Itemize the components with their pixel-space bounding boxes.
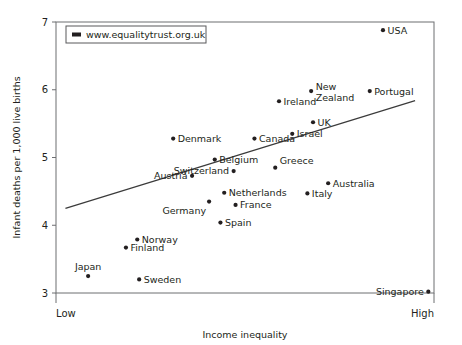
legend-swatch-icon	[72, 33, 81, 37]
point-label: New	[316, 81, 337, 92]
point-marker	[135, 237, 139, 241]
point-marker	[277, 99, 281, 103]
data-point: Switzerland	[174, 165, 236, 176]
x-axis-title: Income inequality	[203, 329, 288, 340]
data-point: Greece	[273, 155, 314, 170]
data-point: Spain	[218, 217, 251, 228]
point-label: Canada	[259, 133, 295, 144]
data-point: NewZealand	[309, 81, 354, 103]
point-marker	[222, 191, 226, 195]
data-point: UK	[311, 117, 332, 128]
point-marker	[309, 89, 313, 93]
point-label: Sweden	[144, 274, 182, 285]
y-tick-label: 3	[42, 288, 48, 299]
point-label: Zealand	[316, 92, 355, 103]
point-label: Netherlands	[229, 187, 287, 198]
data-point: Singapore	[376, 286, 431, 297]
y-tick-label: 6	[42, 84, 48, 95]
point-marker	[311, 120, 315, 124]
data-point: Italy	[305, 188, 333, 199]
point-marker	[326, 181, 330, 185]
point-label: Switzerland	[174, 165, 229, 176]
data-point: Sweden	[137, 274, 181, 285]
y-tick-label: 5	[42, 152, 48, 163]
y-tick-label: 4	[42, 220, 48, 231]
chart-legend: www.equalitytrust.org.uk	[66, 26, 206, 43]
x-tick-label-low: Low	[56, 308, 76, 319]
point-label: USA	[387, 25, 407, 36]
point-marker	[218, 220, 222, 224]
x-tick-label-high: High	[411, 308, 434, 319]
point-label: Japan	[74, 261, 102, 272]
point-marker	[290, 132, 294, 136]
point-marker	[232, 169, 236, 173]
data-point: Canada	[252, 133, 295, 144]
point-label: Denmark	[178, 133, 222, 144]
point-marker	[252, 136, 256, 140]
data-point: USA	[381, 25, 408, 36]
point-label: France	[240, 199, 272, 210]
data-point: Norway	[135, 234, 178, 245]
point-marker	[171, 136, 175, 140]
point-marker	[273, 166, 277, 170]
data-point: Japan	[74, 261, 102, 278]
point-marker	[137, 277, 141, 281]
point-marker	[213, 157, 217, 161]
point-marker	[426, 290, 430, 294]
point-label: Norway	[142, 234, 178, 245]
y-axis-ticks: 34567	[42, 17, 56, 299]
point-label: Germany	[162, 205, 206, 216]
data-point: Australia	[326, 178, 375, 189]
point-label: Israel	[297, 128, 323, 139]
data-point: Ireland	[277, 96, 316, 107]
data-point: Netherlands	[222, 187, 287, 198]
point-label: Ireland	[284, 96, 317, 107]
point-marker	[305, 191, 309, 195]
point-marker	[124, 246, 128, 250]
point-label: Australia	[333, 178, 375, 189]
data-points: JapanSwedenFinlandNorwaySpainGermanyFran…	[74, 25, 431, 298]
data-point: Denmark	[171, 133, 222, 144]
data-point: Belgium	[213, 154, 259, 165]
point-marker	[381, 28, 385, 32]
point-label: Portugal	[374, 86, 413, 97]
legend-label: www.equalitytrust.org.uk	[86, 29, 206, 40]
point-label: Italy	[312, 188, 333, 199]
point-label: UK	[318, 117, 332, 128]
point-label: Greece	[280, 155, 314, 166]
point-label: Singapore	[376, 286, 424, 297]
data-point: Portugal	[368, 86, 414, 97]
point-label: Spain	[225, 217, 252, 228]
point-marker	[368, 89, 372, 93]
y-axis-title: Infant deaths per 1,000 live births	[11, 76, 22, 238]
chart-canvas: 34567 LowHigh JapanSwedenFinlandNorwaySp…	[0, 0, 462, 345]
y-tick-label: 7	[42, 17, 48, 28]
data-point: Germany	[162, 199, 211, 215]
point-label: Belgium	[219, 154, 258, 165]
scatter-chart: 34567 LowHigh JapanSwedenFinlandNorwaySp…	[0, 0, 462, 345]
point-marker	[233, 203, 237, 207]
point-marker	[86, 274, 90, 278]
data-point: France	[233, 199, 271, 210]
point-marker	[207, 199, 211, 203]
